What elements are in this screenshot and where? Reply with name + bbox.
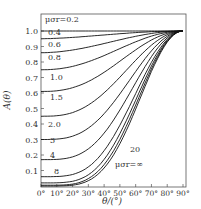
curve-label: 2.0 bbox=[48, 120, 61, 129]
plot-frame bbox=[41, 14, 186, 187]
curve-label: 1.0 bbox=[50, 73, 63, 82]
x-tick-label: 0° bbox=[37, 189, 46, 198]
y-tick-label: 0.4 bbox=[25, 120, 38, 129]
chart: 0.10.20.30.40.50.60.70.80.91.0 0°10°20°3… bbox=[0, 0, 201, 209]
x-tick-label: 70° bbox=[145, 189, 159, 198]
x-tick-label: 30° bbox=[82, 189, 96, 198]
x-tick-label: 60° bbox=[129, 189, 143, 198]
y-tick-label: 0.5 bbox=[25, 105, 38, 114]
x-tick-label: 90° bbox=[176, 189, 190, 198]
curve-label: 3 bbox=[50, 136, 55, 145]
curve-label: μσr=0.2 bbox=[45, 15, 79, 24]
curve-label: 0.4 bbox=[48, 28, 61, 37]
y-tick-label: 0.3 bbox=[25, 136, 38, 145]
y-axis-label: A(θ) bbox=[2, 90, 12, 110]
y-tick-label: 0.1 bbox=[25, 167, 38, 176]
curve-label: 0.8 bbox=[48, 53, 61, 62]
x-tick-label: 20° bbox=[66, 189, 80, 198]
x-tick-label: 10° bbox=[50, 189, 64, 198]
curve-label: 4 bbox=[50, 151, 55, 160]
curve-8 bbox=[41, 31, 183, 183]
y-tick-label: 0.2 bbox=[25, 151, 38, 160]
x-tick-label: 80° bbox=[161, 189, 175, 198]
x-axis-label: θ/(°) bbox=[102, 196, 122, 206]
y-tick-label: 0.7 bbox=[25, 74, 38, 83]
curve-label: 0.6 bbox=[48, 40, 61, 49]
curve-label: 8 bbox=[54, 167, 59, 176]
y-tick-label: 0.9 bbox=[25, 43, 38, 52]
curve-∞ bbox=[41, 31, 183, 186]
curves bbox=[41, 31, 183, 186]
y-tick-label: 0.6 bbox=[25, 89, 38, 98]
curve-label: μσr=∞ bbox=[115, 160, 143, 169]
curve-label: 20 bbox=[130, 145, 140, 154]
curve-20 bbox=[41, 31, 183, 185]
y-tick-label: 1.0 bbox=[25, 27, 38, 36]
curve-label: 1.5 bbox=[50, 93, 63, 102]
y-tick-label: 0.8 bbox=[25, 58, 38, 67]
